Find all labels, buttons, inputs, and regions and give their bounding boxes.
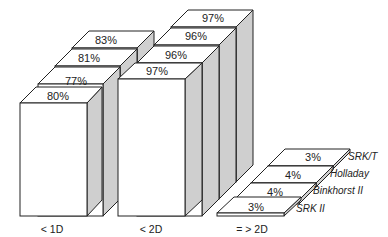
value-label: 77% [65, 75, 87, 87]
series-label-srk2: SRK II [296, 203, 325, 214]
category-label-lt-1d: < 1D [41, 223, 64, 235]
category-label-gte-2d: = > 2D [236, 223, 268, 235]
value-label: 3% [248, 201, 264, 213]
series-label-holladay: Holladay [330, 168, 370, 179]
value-label: 83% [95, 34, 117, 46]
bar-lt1d-srk2 [20, 87, 102, 216]
series-label-binkhorst: Binkhorst II [313, 185, 363, 196]
bar-lt2d-srk2 [118, 63, 202, 216]
chart-canvas: 83% 81% 77% 80% 97% 96% 96% 97% [0, 0, 388, 237]
value-label: 97% [146, 65, 168, 77]
category-label-lt-2d: < 2D [140, 223, 163, 235]
value-label: 96% [185, 30, 207, 42]
value-label: 81% [78, 52, 100, 64]
value-label: 3% [305, 151, 321, 163]
value-label: 97% [202, 12, 224, 24]
series-label-srkt: SRK/T [348, 151, 378, 162]
value-label: 80% [47, 90, 69, 102]
value-label: 96% [165, 49, 187, 61]
value-label: 4% [267, 186, 283, 198]
value-label: 4% [285, 169, 301, 181]
